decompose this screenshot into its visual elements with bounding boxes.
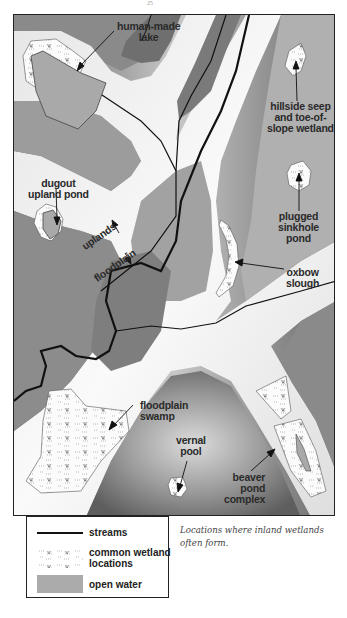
figure-caption: Locations where inland wetlands often fo… — [180, 524, 345, 550]
wetland-pattern-icon — [37, 548, 83, 568]
label-human-made-lake: human-made lake — [117, 21, 180, 43]
label-hillside-seep: hillside seep and toe-of- slope wetland — [267, 101, 334, 134]
stream-line-icon — [37, 530, 83, 536]
label-vernal-pool: vernal pool — [176, 435, 206, 457]
open-water-swatch-icon — [37, 575, 83, 593]
legend-item-open-water: open water — [37, 575, 142, 593]
page-number: 25 — [135, 0, 165, 6]
label-floodplain-swamp: floodplain swamp — [140, 400, 188, 422]
legend-item-wetlands: common wetland locations — [37, 547, 171, 569]
wetland-map: human-made lake hillside seep and toe-of… — [13, 14, 335, 516]
legend-label: streams — [89, 527, 127, 538]
legend-label: open water — [89, 579, 142, 590]
legend-item-streams: streams — [37, 527, 127, 538]
label-plugged-sinkhole: plugged sinkhole pond — [278, 211, 319, 244]
label-beaver-pond: beaver pond complex — [224, 472, 265, 505]
label-dugout-pond: dugout upland pond — [28, 178, 89, 200]
legend-label: common wetland locations — [89, 547, 171, 569]
label-oxbow-slough: oxbow slough — [286, 267, 319, 289]
map-legend: streams common wetland locations open wa… — [26, 516, 169, 598]
